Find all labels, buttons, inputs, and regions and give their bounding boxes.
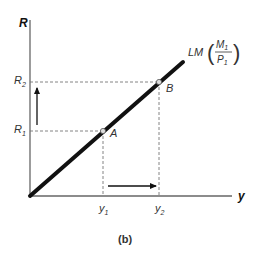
point-a-label: A (109, 127, 117, 139)
r1-label: R1 (14, 123, 26, 137)
svg-text:LM: LM (188, 46, 204, 58)
lm-label: LM ( M1 P1 ) (188, 39, 240, 66)
svg-text:P1: P1 (217, 54, 228, 66)
svg-text:M1: M1 (216, 39, 228, 51)
r-axis-label: R (19, 16, 28, 30)
point-a (100, 128, 105, 133)
lm-diagram: R y R2 R1 y1 y2 A B LM ( M1 P1 ) (b) (0, 0, 255, 256)
y-axis-label: y (237, 189, 246, 203)
point-b (156, 79, 161, 84)
r2-label: R2 (14, 74, 26, 88)
panel-label: (b) (118, 233, 132, 245)
svg-text:): ) (233, 40, 240, 65)
svg-text:(: ( (207, 40, 215, 65)
point-b-label: B (166, 82, 173, 94)
y2-label: y2 (154, 202, 165, 216)
y1-label: y1 (98, 202, 109, 216)
